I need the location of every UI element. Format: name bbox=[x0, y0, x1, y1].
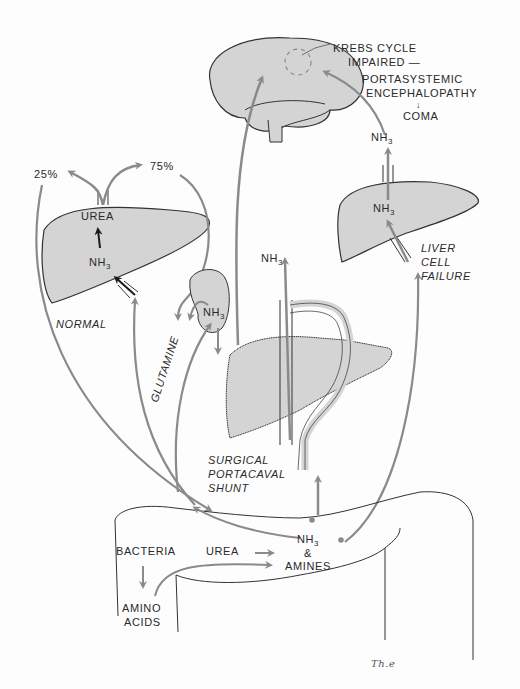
diagram-illustration bbox=[0, 0, 520, 689]
krebs-label-line1: KREBS CYCLE bbox=[333, 42, 417, 55]
normal-urea-label: UREA bbox=[81, 210, 114, 223]
bacteria-label: BACTERIA bbox=[116, 545, 176, 558]
artist-signature: Th.e bbox=[371, 657, 396, 670]
kidney-illustration bbox=[190, 270, 230, 333]
colon-urea-label: UREA bbox=[206, 545, 239, 558]
failure-nh3-top-label: NH3 bbox=[371, 131, 393, 145]
diagram-canvas: KREBS CYCLE IMPAIRED — PORTASYSTEMIC ENC… bbox=[0, 0, 520, 689]
percent-75-label: 75% bbox=[150, 160, 174, 173]
liver-cell-failure-line1: LIVER bbox=[421, 242, 456, 255]
encephalopathy-label-line2: ENCEPHALOPATHY bbox=[366, 87, 477, 100]
normal-caption: NORMAL bbox=[56, 318, 107, 331]
shunt-nh3-label: NH3 bbox=[261, 252, 283, 266]
encephalopathy-label-line1: PORTASYSTEMIC bbox=[362, 73, 463, 86]
nh3-amines-label: NH3 & AMINES bbox=[273, 533, 343, 573]
shunt-caption-line1: SURGICAL bbox=[208, 454, 269, 467]
coma-label: COMA bbox=[403, 110, 438, 123]
amino-label: AMINO bbox=[122, 602, 161, 615]
shunt-caption-line3: SHUNT bbox=[208, 482, 249, 495]
shunt-liver-illustration bbox=[226, 300, 391, 470]
acids-label: ACIDS bbox=[124, 616, 161, 629]
shunt-caption-line2: PORTACAVAL bbox=[208, 468, 286, 481]
krebs-label-line2: IMPAIRED — bbox=[348, 56, 420, 69]
percent-25-label: 25% bbox=[34, 168, 58, 181]
liver-cell-failure-line2: CELL bbox=[421, 256, 451, 269]
kidney-nh3-label: NH3 bbox=[203, 306, 225, 320]
liver-cell-failure-line3: FAILURE bbox=[421, 270, 471, 283]
failing-liver-illustration bbox=[338, 165, 479, 262]
normal-nh3-label: NH3 bbox=[89, 256, 111, 270]
failure-nh3-inner-label: NH3 bbox=[373, 202, 395, 216]
